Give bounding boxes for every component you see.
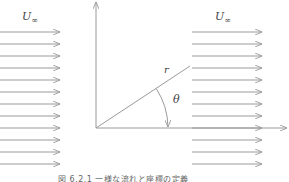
right-flow-arrows: [192, 32, 262, 164]
figure-caption: 図 6.2.1 一様な流れと座標の定義: [58, 173, 189, 182]
left-velocity-label: U∞: [22, 10, 38, 25]
right-velocity-label: U∞: [215, 10, 231, 25]
angle-arc-arrow: [156, 88, 168, 127]
uniform-flow-diagram: [0, 0, 289, 182]
left-flow-arrows: [0, 32, 60, 164]
angle-theta-label: θ: [173, 93, 180, 106]
radius-label: r: [164, 64, 169, 75]
